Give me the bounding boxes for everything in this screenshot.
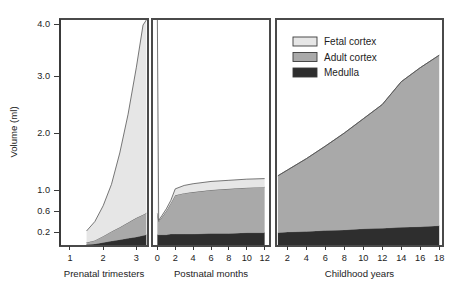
- x-tick-label-postnatal-5: 10: [242, 253, 252, 263]
- legend-swatch-fetal-cortex: [293, 37, 317, 46]
- x-tick-label-postnatal-2: 4: [191, 253, 196, 263]
- x-tick-label-postnatal-3: 6: [208, 253, 213, 263]
- legend-swatch-medulla: [293, 68, 317, 77]
- x-tick-label-postnatal-0: 0: [155, 253, 160, 263]
- area-postnatal-medulla: [157, 233, 264, 246]
- x-tick-label-postnatal-4: 8: [226, 253, 231, 263]
- y-tick-label-4: 3.0: [37, 71, 50, 81]
- panel-areas-childhood: [278, 55, 439, 246]
- x-tick-label-childhood-1: 4: [304, 253, 309, 263]
- legend-label-adult-cortex: Adult cortex: [324, 52, 377, 63]
- y-tick-label-2: 1.0: [37, 185, 50, 195]
- x-tick-label-childhood-5: 12: [377, 253, 387, 263]
- panel-caption-childhood: Childhood years: [325, 268, 395, 279]
- area-childhood-adult-cortex: [278, 55, 439, 233]
- x-tick-label-childhood-2: 6: [323, 253, 328, 263]
- y-axis-title: Volume (ml): [8, 106, 19, 157]
- y-tick-label-1: 0.6: [37, 206, 50, 216]
- x-tick-label-childhood-3: 8: [342, 253, 347, 263]
- x-tick-label-prenatal-1: 2: [101, 253, 106, 263]
- panel-caption-postnatal: Postnatal months: [174, 268, 248, 279]
- panel-areas-postnatal: [157, 20, 264, 246]
- x-tick-label-postnatal-1: 2: [173, 253, 178, 263]
- x-tick-label-prenatal-0: 1: [67, 253, 72, 263]
- x-tick-label-postnatal-6: 12: [260, 253, 270, 263]
- adrenal-volume-stacked-area-chart: 123Prenatal trimesters024681012Postnatal…: [0, 0, 451, 292]
- area-prenatal-fetal-cortex: [87, 20, 147, 243]
- chart-figure: 123Prenatal trimesters024681012Postnatal…: [0, 0, 451, 292]
- y-tick-label-5: 4.0: [37, 19, 50, 29]
- x-tick-label-childhood-7: 16: [415, 253, 425, 263]
- legend-swatch-adult-cortex: [293, 53, 317, 62]
- x-tick-label-childhood-8: 18: [434, 253, 444, 263]
- x-tick-label-childhood-0: 2: [285, 253, 290, 263]
- panel-areas-prenatal: [87, 20, 147, 246]
- y-axis: 0.20.61.02.03.04.0Volume (ml): [8, 19, 60, 246]
- panel-caption-prenatal: Prenatal trimesters: [64, 268, 145, 279]
- x-tick-label-prenatal-2: 3: [134, 253, 139, 263]
- legend-label-medulla: Medulla: [324, 67, 359, 78]
- chart-legend: Fetal cortexAdult cortexMedulla: [293, 36, 377, 78]
- legend-label-fetal-cortex: Fetal cortex: [324, 36, 376, 47]
- x-tick-label-childhood-4: 10: [358, 253, 368, 263]
- panel-postnatal: 024681012Postnatal months: [152, 19, 270, 279]
- panel-prenatal: 123Prenatal trimesters: [60, 19, 148, 279]
- x-tick-label-childhood-6: 14: [396, 253, 406, 263]
- y-tick-label-0: 0.2: [37, 227, 50, 237]
- y-tick-label-3: 2.0: [37, 128, 50, 138]
